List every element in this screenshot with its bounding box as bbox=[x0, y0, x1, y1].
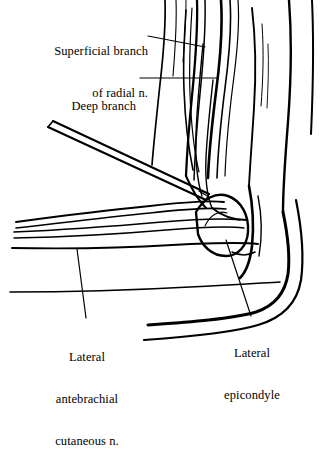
muscle-striations bbox=[152, 0, 313, 212]
lateral-antebrachial-cutaneous-nerve bbox=[16, 201, 226, 228]
label-lateral-antebrachial-line2: antebrachial bbox=[35, 392, 139, 406]
label-lateral-antebrachial: Lateral antebrachial cutaneous n. bbox=[35, 322, 139, 449]
leader-lateral-antebrachial bbox=[77, 249, 86, 318]
lateral-epicondyle bbox=[196, 195, 255, 256]
label-deep-branch-line1: Deep branch bbox=[40, 99, 136, 113]
label-superficial-branch-line1: Superficial branch bbox=[30, 44, 148, 58]
label-lateral-antebrachial-line1: Lateral bbox=[35, 350, 139, 364]
label-deep-branch: Deep branch bbox=[40, 71, 136, 141]
label-lateral-epicondyle-line2: epicondyle bbox=[207, 388, 297, 402]
label-lateral-epicondyle-line1: Lateral bbox=[207, 346, 297, 360]
label-lateral-epicondyle: Lateral epicondyle bbox=[207, 318, 297, 430]
label-lateral-antebrachial-line3: cutaneous n. bbox=[35, 434, 139, 448]
